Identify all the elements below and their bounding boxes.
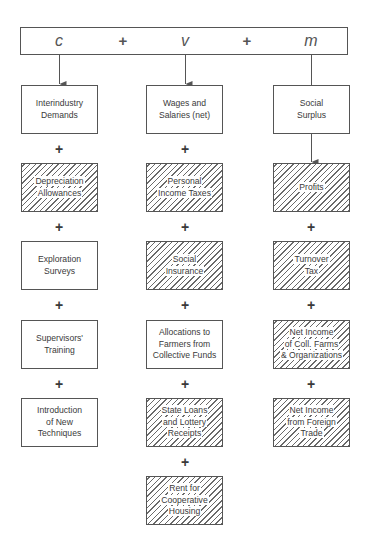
box-label-line: Insurance xyxy=(165,266,205,276)
box-label: Introductionof NewTechniques xyxy=(36,405,83,440)
box-label-line: Training xyxy=(44,345,75,355)
box-label-line: Depreciation xyxy=(34,176,84,186)
box-c-3: Supervisors'Training xyxy=(21,320,98,369)
box-label-line: & Organizations xyxy=(280,350,343,360)
box-label: Rent forCooperativeHousing xyxy=(159,483,209,518)
box-label: SocialInsurance xyxy=(164,254,206,277)
plus-sign: + xyxy=(178,455,192,469)
box-label-line: Farmers from xyxy=(159,339,211,349)
plus-sign: + xyxy=(304,377,318,391)
box-label: InterindustryDemands xyxy=(35,98,84,121)
plus-sign: + xyxy=(304,220,318,234)
box-label-line: Tax xyxy=(304,266,319,276)
box-label-line: Techniques xyxy=(38,428,81,438)
box-label-line: Social xyxy=(300,98,323,108)
box-v-4: State Loansand LotteryReceipts xyxy=(146,398,223,447)
box-label-line: of New xyxy=(46,417,73,427)
box-label: PersonalIncome Taxes xyxy=(156,176,213,199)
box-v-3: Allocations toFarmers fromCollective Fun… xyxy=(146,320,223,369)
box-label-line: Rent for xyxy=(168,483,201,493)
box-label-line: Supervisors' xyxy=(36,333,83,343)
box-label-line: Allowances xyxy=(37,188,82,198)
plus-sign: + xyxy=(304,298,318,312)
box-label-line: Profits xyxy=(298,182,324,192)
plus-sign: + xyxy=(52,220,66,234)
box-label-line: Wages and xyxy=(163,98,206,108)
plus-sign: + xyxy=(52,142,66,156)
box-label-line: Surveys xyxy=(44,266,75,276)
box-label-line: Allocations to xyxy=(159,327,210,337)
box-label: Net Incomefrom ForeignTrade xyxy=(285,405,338,440)
box-label-line: Demands xyxy=(41,110,78,120)
box-label-line: Personal xyxy=(167,176,203,186)
box-label-line: Housing xyxy=(168,506,202,516)
box-label-line: Salaries (net) xyxy=(159,110,210,120)
box-label-line: from Foreign xyxy=(286,417,337,427)
box-c-0: InterindustryDemands xyxy=(21,85,98,134)
box-c-2: ExplorationSurveys xyxy=(21,241,98,290)
box-label-line: Collective Funds xyxy=(153,350,217,360)
plus-sign: + xyxy=(178,220,192,234)
plus-sign: + xyxy=(52,298,66,312)
box-label-line: Net Income xyxy=(289,327,335,337)
box-label-line: Introduction xyxy=(37,405,82,415)
box-label: TurnoverTax xyxy=(292,254,330,277)
box-label: DepreciationAllowances xyxy=(33,176,85,199)
box-label-line: Net Income xyxy=(289,405,335,415)
box-label: SocialSurplus xyxy=(296,98,327,121)
box-label: State Loansand LotteryReceipts xyxy=(160,405,210,440)
box-label-line: Cooperative xyxy=(160,495,208,505)
box-v-2: SocialInsurance xyxy=(146,241,223,290)
box-label: Wages andSalaries (net) xyxy=(158,98,211,121)
box-label-line: Surplus xyxy=(297,110,326,120)
box-v-1: PersonalIncome Taxes xyxy=(146,163,223,212)
box-label-line: Interindustry xyxy=(36,98,83,108)
box-label: Net Incomeof Coll. Farms& Organizations xyxy=(279,327,344,362)
box-c-4: Introductionof NewTechniques xyxy=(21,398,98,447)
box-m-1: Profits xyxy=(273,163,350,212)
box-label: ExplorationSurveys xyxy=(37,254,82,277)
box-m-2: TurnoverTax xyxy=(273,241,350,290)
box-label: Supervisors'Training xyxy=(35,333,84,356)
plus-sign: + xyxy=(52,377,66,391)
box-label-line: Exploration xyxy=(38,254,81,264)
box-label-line: Trade xyxy=(299,428,323,438)
box-label: Allocations toFarmers fromCollective Fun… xyxy=(152,327,218,362)
box-c-1: DepreciationAllowances xyxy=(21,163,98,212)
box-label-line: Income Taxes xyxy=(157,188,212,198)
box-m-4: Net Incomefrom ForeignTrade xyxy=(273,398,350,447)
box-v-0: Wages andSalaries (net) xyxy=(146,85,223,134)
box-label-line: Social xyxy=(172,254,197,264)
box-m-3: Net Incomeof Coll. Farms& Organizations xyxy=(273,320,350,369)
box-label-line: State Loans xyxy=(161,405,209,415)
box-label-line: Turnover xyxy=(293,254,329,264)
box-label: Profits xyxy=(297,182,325,194)
plus-sign: + xyxy=(178,142,192,156)
box-label-line: Receipts xyxy=(167,428,202,438)
box-m-0: SocialSurplus xyxy=(273,85,350,134)
box-v-5: Rent forCooperativeHousing xyxy=(146,476,223,525)
plus-sign: + xyxy=(178,377,192,391)
box-label-line: and Lottery xyxy=(162,417,207,427)
box-label-line: of Coll. Farms xyxy=(284,339,339,349)
plus-sign: + xyxy=(178,298,192,312)
